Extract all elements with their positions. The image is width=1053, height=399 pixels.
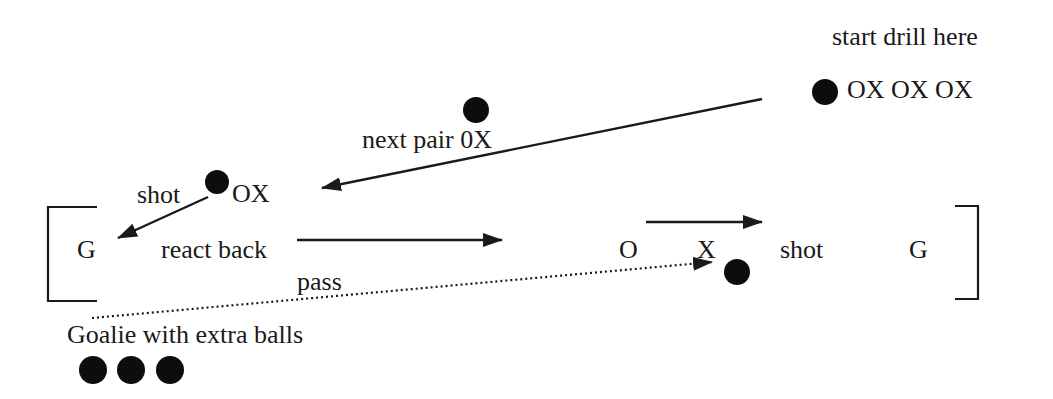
pass-label: pass [297,267,342,296]
right-goal-bracket [955,206,978,299]
react-back-label: react back [161,235,267,264]
pair-left-label: OX [232,179,270,208]
extra-ball-icon [79,356,107,384]
player-x-label: X [697,235,716,264]
pass-arrow [92,262,712,318]
player-o-label: O [619,235,638,264]
extra-ball-icon [156,356,184,384]
goalie-extra-label: Goalie with extra balls [67,320,303,349]
extra-ball-icon [117,356,145,384]
start-drill-label: start drill here [832,22,978,51]
goalie-right-label: G [909,235,928,264]
goalie-left-label: G [77,235,96,264]
shot-left-label: shot [137,180,181,209]
start-ball-icon [812,79,838,105]
queue-label: OX OX OX [847,75,973,104]
drill-diagram: start drill here OX OX OX next pair 0X s… [0,0,1053,399]
next-pair-ball-icon [463,97,489,123]
shot-ball-icon [205,170,229,194]
next-pair-label: next pair 0X [362,125,492,154]
receive-ball-icon [724,259,750,285]
shot-right-label: shot [780,235,824,264]
